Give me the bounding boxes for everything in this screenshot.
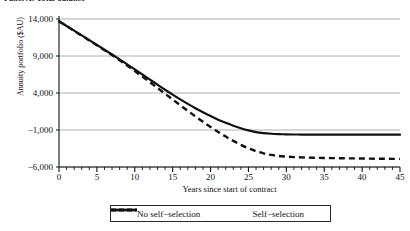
x-tick-label-6: 30 (271, 172, 301, 182)
x-tick-label-2: 10 (120, 172, 150, 182)
series-line-self-selection (59, 21, 400, 159)
x-tick-label-5: 25 (233, 172, 263, 182)
legend-entry-0[interactable]: No self−selection (137, 209, 200, 219)
plot-area (0, 0, 410, 231)
x-tick-label-9: 45 (385, 172, 410, 182)
data-series-layer (59, 21, 400, 159)
x-tick-label-4: 20 (196, 172, 226, 182)
gridlines (59, 19, 400, 167)
legend-entry-1[interactable]: Self−selection (252, 209, 304, 219)
x-tick-label-7: 35 (309, 172, 339, 182)
legend-swatch-dashed-icon (111, 206, 137, 214)
series-line-no-self-selection (59, 21, 400, 134)
x-tick-label-3: 15 (158, 172, 188, 182)
x-tick-label-8: 40 (347, 172, 377, 182)
chart-legend: No self−selectionSelf−selection (110, 205, 331, 222)
x-axis-title: Years since start of contract (57, 184, 402, 194)
axis-lines (56, 16, 400, 167)
legend-label-0: No self−selection (137, 209, 200, 219)
legend-label-1: Self−selection (252, 209, 304, 219)
x-tick-label-1: 5 (82, 172, 112, 182)
x-tick-label-0: 0 (44, 172, 74, 182)
chart-figure: Panel A: Total balance Annuity portfolio… (0, 0, 410, 231)
